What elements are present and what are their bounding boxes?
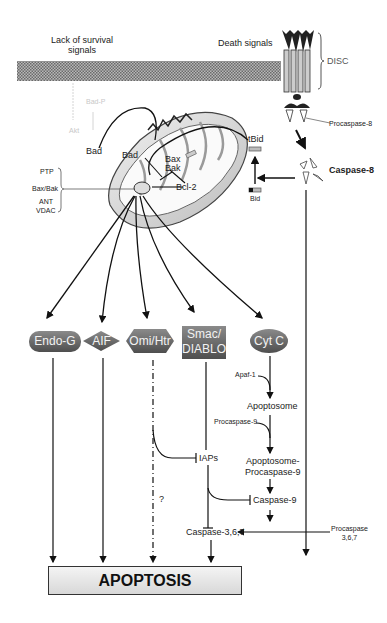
cell-membrane: [17, 61, 281, 81]
akt-label: Akt: [69, 127, 79, 134]
disc-label: DISC: [327, 56, 349, 66]
aif-label: AIF: [86, 334, 117, 348]
apaf1-label: Apaf-1: [235, 371, 256, 378]
procaspase-9-label: Procaspase-9: [214, 418, 257, 425]
apoptosis-label: APOPTOSIS: [98, 572, 191, 590]
omi-htr-label: Omi/Htr: [126, 334, 174, 348]
title-left-line2: signals: [68, 45, 96, 55]
bad-outer-label: Bad: [86, 146, 102, 156]
apoptosome-procaspase9-line1: Apoptosome-: [246, 456, 300, 466]
procaspase-8-label: Procaspase-8: [329, 120, 372, 127]
bad-inner-label: Bad: [122, 150, 138, 160]
iaps-label: IAPs: [199, 453, 218, 463]
apoptosome-procaspase9-label: Apoptosome- Procaspase-9: [245, 456, 301, 478]
caspase-9-label: Caspase-9: [253, 495, 297, 505]
lack-survival-signals-label: Lack of survival signals: [51, 35, 113, 55]
pore-label-vdac: VDAC: [36, 207, 55, 214]
cyt-c-label: Cyt C: [250, 334, 288, 348]
procaspase-367-label: Procaspase 3,6,7: [331, 524, 368, 542]
procaspase-367-line2: 3,6,7: [342, 534, 358, 541]
tbid-label: tBid: [248, 134, 264, 144]
pore-label-ptp: PTP: [40, 168, 54, 175]
caspase-367-label: Caspase-3,6,7: [186, 527, 245, 537]
smac-diablo-label: Smac/ DIABLO: [182, 327, 226, 357]
apoptosome-procaspase9-line2: Procaspase-9: [245, 467, 301, 477]
death-signals-label: Death signals: [218, 38, 273, 48]
diablo-label: DIABLO: [182, 342, 226, 356]
caspase-8-label: Caspase-8: [329, 165, 374, 175]
pore-label-ant: ANT: [39, 198, 53, 205]
bcl-label: Bcl-2: [176, 182, 197, 192]
apoptosome-label: Apoptosome: [247, 401, 298, 411]
apoptosis-box: APOPTOSIS: [48, 566, 242, 595]
disc-receptor: [282, 30, 324, 122]
endo-g-label: Endo-G: [29, 334, 81, 348]
procaspase-367-line1: Procaspase: [331, 525, 368, 532]
question-mark-label: ?: [159, 494, 164, 504]
smac-label: Smac/: [187, 327, 221, 341]
bid-label: Bid: [250, 195, 260, 202]
caspase-8-fragments: [300, 158, 323, 184]
bad-p-label: Bad-P: [86, 98, 105, 105]
pore-label-bax-bak: Bax/Bak: [32, 185, 58, 192]
bak-label: Bak: [165, 163, 181, 173]
title-left-line1: Lack of survival: [51, 35, 113, 45]
